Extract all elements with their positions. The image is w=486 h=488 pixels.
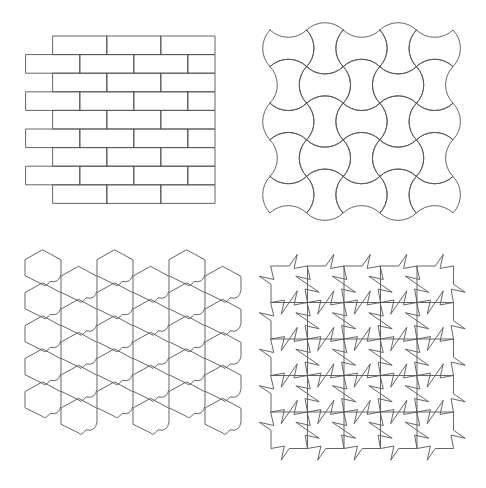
tile-edge [296, 364, 356, 424]
tile-edge [263, 30, 314, 67]
tile-edge [336, 103, 387, 140]
arc-tiling-panel [263, 23, 461, 221]
tile-edge [299, 140, 350, 177]
tile-edge [369, 291, 429, 351]
tile-edge [25, 316, 61, 352]
tile-edge [107, 73, 161, 92]
tile-edge [405, 364, 465, 424]
tile-edge [133, 333, 169, 369]
tile-edge [259, 327, 319, 387]
tile-edge [61, 267, 97, 303]
tile-edge [369, 400, 429, 460]
tile-edge [161, 36, 215, 55]
tile-edge [80, 55, 134, 74]
tile-edge [25, 349, 61, 385]
tile-edge [26, 129, 80, 148]
tile-edge [133, 399, 169, 435]
tile-edge [134, 92, 188, 111]
tiling-figure [0, 0, 486, 488]
tile-edge [380, 23, 417, 74]
tile-edge [307, 96, 344, 147]
tile-edge [343, 132, 380, 183]
tile-edge [380, 96, 417, 147]
tile-edge [405, 327, 465, 387]
tile-edge [169, 250, 205, 286]
tile-edge [263, 103, 314, 140]
tile-edge [259, 364, 319, 424]
tile-edge [188, 166, 215, 185]
tile-edge [26, 92, 80, 111]
tile-edge [80, 92, 134, 111]
tile-edge [259, 254, 319, 314]
hex-puzzle-tiling-panel [25, 250, 241, 434]
tile-edge [25, 382, 61, 418]
tile-edge [263, 176, 314, 213]
tile-edge [80, 129, 134, 148]
tile-edge [134, 129, 188, 148]
tile-edge [169, 349, 205, 385]
tile-edge [53, 148, 107, 167]
tile-edge [97, 382, 133, 418]
tile-edge [409, 103, 460, 140]
tile-edge [80, 166, 134, 185]
tile-edge [369, 254, 429, 314]
tile-edge [61, 300, 97, 336]
tile-edge [26, 166, 80, 185]
tile-edge [296, 327, 356, 387]
tile-edge [53, 73, 107, 92]
tile-edge [61, 399, 97, 435]
tile-edge [270, 59, 307, 110]
tile-edge [205, 267, 241, 303]
tile-edge [307, 23, 344, 74]
tile-edge [380, 169, 417, 220]
tile-edge [409, 176, 460, 213]
tile-edge [97, 250, 133, 286]
tile-edge [97, 283, 133, 319]
tile-edge [332, 400, 392, 460]
brick-tiling-panel [26, 36, 215, 203]
pinwheel-tiling-panel [259, 254, 465, 460]
tile-edge [134, 166, 188, 185]
tile-edge [188, 129, 215, 148]
tile-edge [205, 366, 241, 402]
tile-edge [169, 316, 205, 352]
tile-edge [133, 267, 169, 303]
tile-edge [372, 67, 423, 104]
tile-edge [296, 291, 356, 351]
tile-edge [107, 36, 161, 55]
tile-edge [61, 366, 97, 402]
tile-edge [205, 399, 241, 435]
tile-edge [97, 349, 133, 385]
tile-edge [296, 400, 356, 460]
tile-edge [169, 283, 205, 319]
tile-edge [188, 92, 215, 111]
tile-edge [405, 400, 465, 460]
tile-edge [169, 382, 205, 418]
tile-edge [405, 291, 465, 351]
tile-edge [369, 327, 429, 387]
tile-edge [205, 300, 241, 336]
tile-edge [25, 283, 61, 319]
tile-edge [369, 364, 429, 424]
tile-edge [332, 327, 392, 387]
tile-edge [332, 254, 392, 314]
tile-edge [53, 110, 107, 129]
tile-edge [336, 30, 387, 67]
tile-edge [107, 110, 161, 129]
tile-edge [53, 185, 107, 204]
tile-edge [296, 254, 356, 314]
tile-edge [299, 67, 350, 104]
tile-edge [161, 185, 215, 204]
tile-edge [259, 291, 319, 351]
tile-edge [336, 176, 387, 213]
tile-edge [25, 250, 61, 286]
tile-edge [133, 366, 169, 402]
tile-edge [307, 169, 344, 220]
tile-edge [270, 132, 307, 183]
tile-edge [107, 148, 161, 167]
tile-edge [161, 148, 215, 167]
tile-edge [53, 36, 107, 55]
tile-edge [332, 291, 392, 351]
tile-edge [107, 185, 161, 204]
tile-edge [259, 400, 319, 460]
